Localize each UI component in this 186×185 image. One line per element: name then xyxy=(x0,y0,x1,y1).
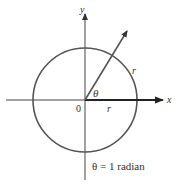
caption: θ = 1 radian xyxy=(92,160,145,172)
radius-label: r xyxy=(107,103,111,114)
arc-length-label: r xyxy=(132,65,136,76)
y-axis-label: y xyxy=(79,4,85,15)
angle-ray xyxy=(85,31,127,100)
angle-theta-label: θ xyxy=(93,87,99,99)
origin-label: 0 xyxy=(76,103,81,114)
radian-diagram: y x 0 θ r r θ = 1 radian xyxy=(0,0,186,185)
x-axis-label: x xyxy=(166,94,172,105)
